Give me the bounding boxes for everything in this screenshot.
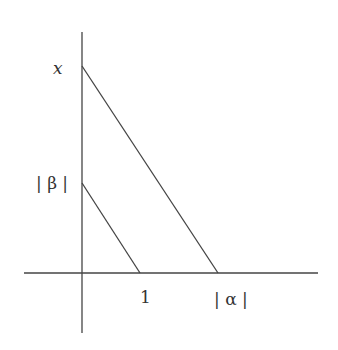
line-x-to-alpha xyxy=(82,66,218,273)
label-x: x xyxy=(53,58,63,78)
label-one: 1 xyxy=(140,287,151,307)
diagram-canvas: x | β | 1 | α | xyxy=(0,0,338,350)
label-alpha: | α | xyxy=(214,289,248,309)
line-beta-to-one xyxy=(82,183,140,273)
label-beta: | β | xyxy=(36,173,68,193)
